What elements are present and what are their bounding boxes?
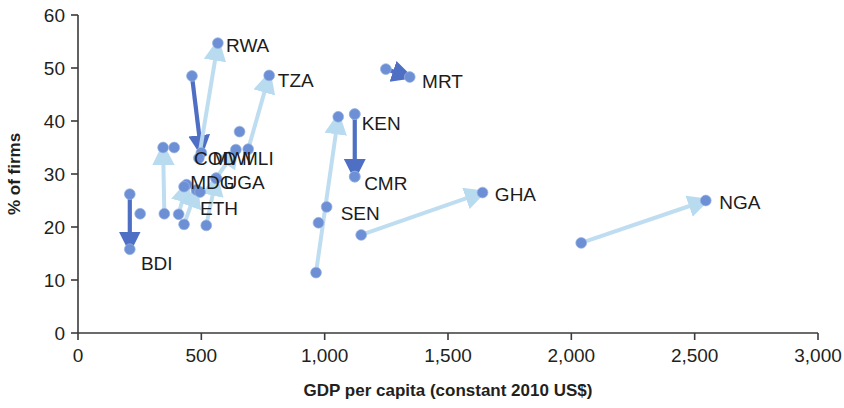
point-tza-end [264, 70, 275, 81]
chart-figure: 05001,0001,5002,0002,5003,00001020304050… [0, 0, 844, 408]
label-rwa: RWA [226, 35, 270, 56]
point-bdi-end [124, 244, 135, 255]
arrow-mwi [163, 148, 164, 214]
label-bdi: BDI [141, 253, 173, 274]
point-extra-5 [313, 217, 324, 228]
point-mwi-end [158, 142, 169, 153]
y-tick-label: 20 [44, 217, 65, 238]
point-mrt-end [404, 72, 415, 83]
y-tick-label: 60 [44, 5, 65, 26]
point-gha-end [477, 187, 488, 198]
x-tick-label: 2,500 [671, 345, 719, 366]
point-extra-6 [234, 126, 245, 137]
x-tick-label: 1,500 [424, 345, 472, 366]
label-mli: MLI [242, 148, 274, 169]
point-mdg-start [173, 209, 184, 220]
y-tick-label: 30 [44, 164, 65, 185]
point-cmr-end [349, 171, 360, 182]
point-mwi-start [159, 208, 170, 219]
point-sen-end [333, 111, 344, 122]
y-tick-label: 50 [44, 58, 65, 79]
point-extra-1 [169, 142, 180, 153]
point-labels-group: BDICODMDGETHMWIUGAMLIRWATZAKENCMRSENGHAN… [141, 35, 761, 274]
point-extra-0 [135, 208, 146, 219]
label-ken: KEN [362, 113, 401, 134]
scatter-plot-svg: 05001,0001,5002,0002,5003,00001020304050… [0, 0, 844, 408]
point-eth-start [179, 219, 190, 230]
point-extra-2 [179, 181, 190, 192]
arrow-rwa [199, 43, 218, 158]
x-tick-label: 0 [73, 345, 84, 366]
arrow-sen [316, 117, 338, 273]
x-tick-label: 3,000 [794, 345, 842, 366]
point-uga-start [201, 220, 212, 231]
label-uga: UGA [224, 172, 265, 193]
y-tick-label: 10 [44, 270, 65, 291]
x-tick-label: 2,000 [548, 345, 596, 366]
point-nga-start [576, 238, 587, 249]
point-nga-end [700, 195, 711, 206]
point-bdi-start [124, 189, 135, 200]
point-mrt-start [380, 64, 391, 75]
label-nga: NGA [719, 192, 761, 213]
axis-titles-group: GDP per capita (constant 2010 US$)% of f… [5, 133, 592, 400]
y-tick-label: 40 [44, 111, 65, 132]
label-sen: SEN [341, 203, 380, 224]
point-extra-4 [321, 201, 332, 212]
arrow-tza [248, 75, 269, 149]
x-tick-label: 1,000 [301, 345, 349, 366]
arrow-nga [581, 201, 706, 243]
label-gha: GHA [495, 184, 537, 205]
y-axis-title: % of firms [5, 133, 24, 215]
label-tza: TZA [278, 70, 314, 91]
point-cod-start [187, 71, 198, 82]
x-tick-label: 500 [185, 345, 217, 366]
x-axis-title: GDP per capita (constant 2010 US$) [304, 381, 593, 400]
label-mrt: MRT [422, 71, 463, 92]
point-gha-start [356, 230, 367, 241]
label-eth: ETH [200, 198, 238, 219]
point-sen-start [311, 267, 322, 278]
point-rwa-end [212, 38, 223, 49]
y-tick-label: 0 [54, 323, 65, 344]
point-cmr-start [349, 109, 360, 120]
label-cmr: CMR [364, 173, 407, 194]
